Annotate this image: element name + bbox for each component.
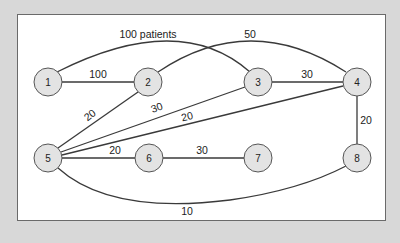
edge-5-8 xyxy=(58,166,346,204)
edge-label-3-4: 30 xyxy=(301,68,313,80)
edge-label-5-3: 30 xyxy=(149,100,164,115)
network-graph: 100 patients 100 50 30 20 30 20 20 20 30… xyxy=(0,0,400,243)
node-4: 4 xyxy=(343,68,371,96)
node-5: 5 xyxy=(34,144,62,172)
edge-label-1-2: 100 xyxy=(89,68,107,80)
edge-label-5-6: 20 xyxy=(109,144,121,156)
node-8: 8 xyxy=(343,144,371,172)
node-3: 3 xyxy=(244,68,272,96)
edge-label-5-4: 20 xyxy=(180,109,194,124)
node-8-label: 8 xyxy=(354,153,360,164)
node-1-label: 1 xyxy=(45,77,51,88)
node-6-label: 6 xyxy=(146,153,152,164)
edge-label-4-8: 20 xyxy=(360,114,372,126)
node-2: 2 xyxy=(134,68,162,96)
node-6: 6 xyxy=(135,144,163,172)
diagram-stage: 100 patients 100 50 30 20 30 20 20 20 30… xyxy=(0,0,400,243)
edge-label-5-2: 20 xyxy=(81,106,98,123)
node-4-label: 4 xyxy=(354,77,360,88)
node-7: 7 xyxy=(244,144,272,172)
edge-2-4 xyxy=(158,41,346,72)
edge-1-3 xyxy=(57,41,250,72)
node-2-label: 2 xyxy=(145,77,151,88)
node-3-label: 3 xyxy=(255,77,261,88)
edge-label-1-3: 100 patients xyxy=(119,28,176,40)
node-5-label: 5 xyxy=(45,153,51,164)
node-1: 1 xyxy=(34,68,62,96)
edge-label-5-8: 10 xyxy=(181,205,193,217)
node-7-label: 7 xyxy=(255,153,261,164)
edge-label-6-7: 30 xyxy=(196,144,208,156)
edge-label-2-4: 50 xyxy=(244,28,256,40)
